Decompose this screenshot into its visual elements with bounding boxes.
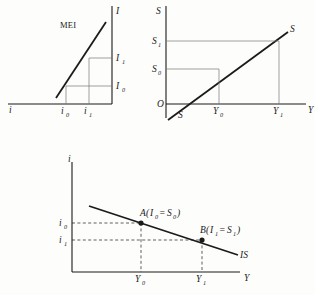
svg-text:1: 1 xyxy=(280,111,283,118)
point-a-marker xyxy=(138,220,143,225)
xtick-Y0: Y 0 xyxy=(213,106,224,118)
svg-text:A: A xyxy=(139,208,146,218)
svg-text:I: I xyxy=(115,53,120,63)
svg-text:I: I xyxy=(209,225,214,235)
svg-text:1: 1 xyxy=(203,279,206,286)
svg-text:): ) xyxy=(236,225,240,236)
panel-savings: S O Y S S S 1 S 0 Y 0 Y 1 xyxy=(152,6,315,120)
xtick-Y1: Y 1 xyxy=(273,106,283,118)
panel-investment: MEI I i I 1 I 0 i 0 i 1 xyxy=(8,6,126,118)
svg-text:): ) xyxy=(176,208,180,219)
axis-label-i-is: i xyxy=(68,154,71,164)
svg-text:Y: Y xyxy=(196,274,203,284)
ytick-S0: S 0 xyxy=(152,64,162,76)
svg-text:S: S xyxy=(227,225,232,235)
ytick-i1-is: i 1 xyxy=(59,235,67,247)
xtick-Y1-is: Y 1 xyxy=(196,274,206,286)
svg-text:=: = xyxy=(219,225,225,235)
svg-text:S: S xyxy=(167,208,172,218)
svg-text:0: 0 xyxy=(220,111,224,118)
svg-text:i: i xyxy=(59,235,62,245)
xtick-i1: i 1 xyxy=(84,106,92,118)
xtick-Y0-is: Y 0 xyxy=(135,274,146,286)
svg-text:I: I xyxy=(149,208,154,218)
curve-label-mei: MEI xyxy=(60,20,76,30)
svg-text:=: = xyxy=(159,208,165,218)
curve-mei xyxy=(56,22,106,98)
xtick-i0: i 0 xyxy=(61,106,70,118)
point-b-label: B ( I 1 = S 1 ) xyxy=(200,225,240,237)
svg-text:1: 1 xyxy=(64,240,67,247)
point-b-marker xyxy=(199,237,204,242)
point-a-label: A ( I 0 = S 0 ) xyxy=(139,208,180,220)
panel-is-curve: A ( I 0 = S 0 ) B ( I 1 = S 1 ) IS i Y i… xyxy=(59,154,251,286)
axis-label-I: I xyxy=(115,6,120,16)
svg-text:i: i xyxy=(84,106,87,116)
svg-text:0: 0 xyxy=(122,86,126,93)
curve-label-savings-end: S xyxy=(290,24,295,34)
svg-text:0: 0 xyxy=(142,279,146,286)
origin-label-O: O xyxy=(157,99,164,109)
svg-text:i: i xyxy=(59,218,62,228)
ytick-i0-is: i 0 xyxy=(59,218,68,230)
svg-text:Y: Y xyxy=(213,106,220,116)
curve-label-savings-start: S xyxy=(178,110,183,120)
svg-text:I: I xyxy=(115,81,120,91)
svg-text:S: S xyxy=(152,36,157,46)
svg-text:S: S xyxy=(152,64,157,74)
svg-text:1: 1 xyxy=(158,41,161,48)
svg-text:Y: Y xyxy=(135,274,142,284)
axis-label-i: i xyxy=(9,105,12,115)
axis-label-Y-is: Y xyxy=(244,273,251,283)
svg-text:1: 1 xyxy=(89,111,92,118)
ytick-S1: S 1 xyxy=(152,36,161,48)
svg-text:1: 1 xyxy=(215,230,218,237)
ytick-I0: I 0 xyxy=(115,81,126,93)
figure-is-curve-derivation: MEI I i I 1 I 0 i 0 i 1 xyxy=(0,0,315,295)
axis-label-S: S xyxy=(156,6,161,16)
svg-text:1: 1 xyxy=(233,230,236,237)
curve-savings xyxy=(168,32,288,120)
curve-label-is: IS xyxy=(239,250,248,260)
svg-text:0: 0 xyxy=(66,111,70,118)
svg-text:1: 1 xyxy=(122,58,125,65)
svg-text:i: i xyxy=(61,106,64,116)
ytick-I1: I 1 xyxy=(115,53,125,65)
svg-text:Y: Y xyxy=(273,106,280,116)
svg-text:0: 0 xyxy=(158,69,162,76)
axis-label-Y: Y xyxy=(308,105,315,115)
svg-text:0: 0 xyxy=(64,223,68,230)
